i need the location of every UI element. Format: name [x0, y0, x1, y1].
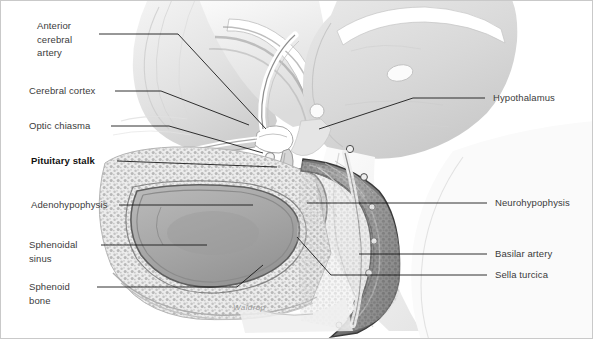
label-anterior-cerebral-artery: Anterior cerebral artery: [37, 19, 72, 60]
artist-signature: Waldrop: [233, 303, 265, 312]
label-pituitary-stalk: Pituitary stalk: [31, 154, 95, 168]
pituitary-sagittal-illustration: [1, 1, 593, 339]
label-neurohypophysis: Neurohypophysis: [495, 196, 570, 210]
mammillary-body: [310, 104, 324, 118]
posterior-fossa: [411, 121, 593, 339]
label-hypothalamus: Hypothalamus: [493, 91, 555, 105]
label-basilar-artery: Basilar artery: [495, 247, 552, 261]
label-sella-turcica: Sella turcica: [495, 268, 548, 282]
anatomical-figure: Anterior cerebral artery Cerebral cortex…: [0, 0, 593, 339]
label-cerebral-cortex: Cerebral cortex: [29, 84, 95, 98]
label-adenohypophysis: Adenohypophysis: [31, 198, 108, 212]
label-optic-chiasma: Optic chiasma: [29, 119, 91, 133]
label-sphenoid-bone: Sphenoid bone: [29, 280, 70, 307]
label-sphenoidal-sinus: Sphenoidal sinus: [29, 238, 78, 265]
